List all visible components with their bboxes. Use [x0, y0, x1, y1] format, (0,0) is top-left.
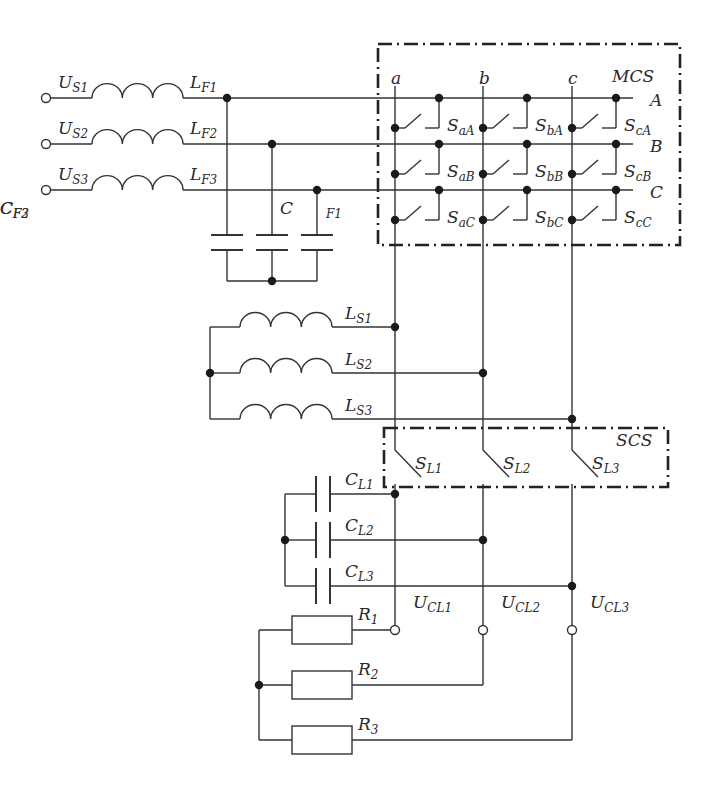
mcs-column-tap: [568, 124, 576, 132]
cl-junction: [479, 536, 487, 544]
filter-cap-junction: [268, 140, 276, 148]
switch-label-bB: SbB: [535, 161, 563, 184]
mcs-bus-tap: [523, 94, 531, 102]
ls-neutral-dot: [206, 369, 214, 377]
switch-label-bA: SbA: [535, 115, 563, 138]
cl-neutral-dot: [281, 536, 289, 544]
r-neutral-dot: [255, 681, 263, 689]
filter-capacitor-label-1: CF1: [280, 198, 342, 221]
load-inductor-label-2: LS2: [344, 349, 372, 372]
enclosures: [378, 44, 680, 487]
switch-label-bC-main: S: [535, 207, 547, 227]
source-label-2: US2: [58, 118, 88, 141]
ls-junction: [479, 369, 487, 377]
load-inductor-label-2-subscript: S2: [356, 358, 372, 372]
output-phase-label-a: a: [391, 68, 401, 88]
load-capacitor-label-2: CL2: [345, 515, 374, 538]
switch-label-aC-subscript: aC: [459, 216, 475, 230]
cl-junction: [391, 490, 399, 498]
switch-label-cC: ScC: [624, 207, 652, 230]
scs-switch-label-1: SL1: [415, 453, 442, 476]
input-phase-label-A: A: [648, 90, 662, 110]
switch-label-aB: SaB: [447, 161, 475, 184]
switch-blade: [493, 206, 509, 220]
scs-switch-label-1-main: S: [415, 453, 427, 473]
load-capacitor-label-3-main: C: [345, 561, 358, 581]
filter-inductor-LF2: [92, 130, 183, 144]
output-voltage-label-3-subscript: CL3: [604, 601, 629, 615]
scs-switch-label-2-subscript: L2: [514, 462, 531, 476]
load-capacitor-label-1: CL1: [345, 469, 374, 492]
load-capacitor-label-3-subscript: L3: [357, 570, 374, 584]
output-phase-label-c: c: [568, 68, 578, 88]
filter-inductor-LF1: [92, 84, 183, 98]
filter-inductor-label-2: LF2: [189, 118, 217, 141]
resistor-label-1-subscript: 1: [371, 613, 379, 627]
mcs-bus-tap: [612, 186, 620, 194]
output-terminal-2: [479, 626, 488, 635]
switch-label-aB-main: S: [447, 161, 459, 181]
switch-label-cB-subscript: cB: [636, 170, 652, 184]
scs-switch-label-3-subscript: L3: [603, 462, 620, 476]
ls-junction: [568, 415, 576, 423]
load-inductor-LS2: [240, 358, 332, 373]
switch-label-cC-subscript: cC: [636, 216, 652, 230]
load-inductor-LS1: [240, 312, 332, 327]
source-label-1: US1: [58, 72, 88, 95]
switch-label-cA: ScA: [624, 115, 651, 138]
resistor-label-3-subscript: 3: [371, 723, 379, 737]
load-capacitor-label-3: CL3: [345, 561, 374, 584]
output-phase-label-b: b: [479, 68, 490, 88]
filter-inductor-label-1-subscript: F1: [200, 81, 217, 95]
mcs-title: MCS: [611, 66, 654, 86]
source-label-1-subscript: S1: [72, 81, 88, 95]
labels: US1LF1US2LF2US3LF3CF1CF2CF3MCSabcABCSaAS…: [0, 66, 663, 737]
output-voltage-label-1: UCL1: [413, 592, 452, 615]
scs-switch-label-2-main: S: [503, 453, 515, 473]
mcs-column-tap: [391, 216, 399, 224]
source-label-3-main: U: [58, 164, 73, 184]
source-terminal: [42, 140, 51, 149]
switch-blade: [582, 114, 598, 128]
filter-inductor-label-1-main: L: [189, 72, 201, 92]
load-inductor-label-3: LS3: [344, 395, 373, 418]
switch-label-cA-subscript: cA: [636, 124, 652, 138]
filter-capacitor-label-1-main: C: [280, 198, 293, 218]
scs-switch-label-3-main: S: [592, 453, 604, 473]
source-label-2-subscript: S2: [72, 127, 88, 141]
switch-blade: [405, 206, 421, 220]
mcs-column-tap: [568, 216, 576, 224]
switch-label-cC-main: S: [624, 207, 636, 227]
resistor-R3: [292, 726, 352, 754]
load-inductor-label-3-main: L: [344, 395, 356, 415]
switch-blade: [405, 114, 421, 128]
mcs-column-tap: [479, 216, 487, 224]
load-capacitor-label-2-subscript: L2: [357, 524, 374, 538]
load-capacitor-label-1-main: C: [345, 469, 358, 489]
load-inductor-label-1-main: L: [344, 303, 356, 323]
load-inductor-label-3-subscript: S3: [356, 404, 372, 418]
switch-label-aA-subscript: aA: [459, 124, 475, 138]
filter-inductor-label-2-main: L: [189, 118, 201, 138]
scs-switch-label-3: SL3: [592, 453, 620, 476]
load-capacitor-label-1-subscript: L1: [357, 478, 374, 492]
resistor-R2: [292, 671, 352, 699]
output-voltage-label-1-main: U: [413, 592, 428, 612]
switch-label-aC-main: S: [447, 207, 459, 227]
filter-capacitor-label-3-main: C: [0, 198, 13, 218]
mcs-bus-tap: [612, 140, 620, 148]
switch-label-cB: ScB: [624, 161, 651, 184]
mcs-bus-tap: [612, 94, 620, 102]
filter-inductor-label-3-subscript: F3: [200, 173, 217, 187]
output-voltage-label-2-subscript: CL2: [515, 601, 540, 615]
source-terminal: [42, 186, 51, 195]
switch-label-bB-main: S: [535, 161, 547, 181]
output-voltage-label-3: UCL3: [590, 592, 629, 615]
load-capacitor-label-2-main: C: [345, 515, 358, 535]
switch-blade: [582, 206, 598, 220]
source-label-2-main: U: [58, 118, 73, 138]
load-inductor-LS3: [240, 404, 332, 419]
filter-inductor-label-2-subscript: F2: [200, 127, 217, 141]
filter-inductor-label-1: LF1: [189, 72, 217, 95]
scs-switch-label-1-subscript: L1: [426, 462, 443, 476]
